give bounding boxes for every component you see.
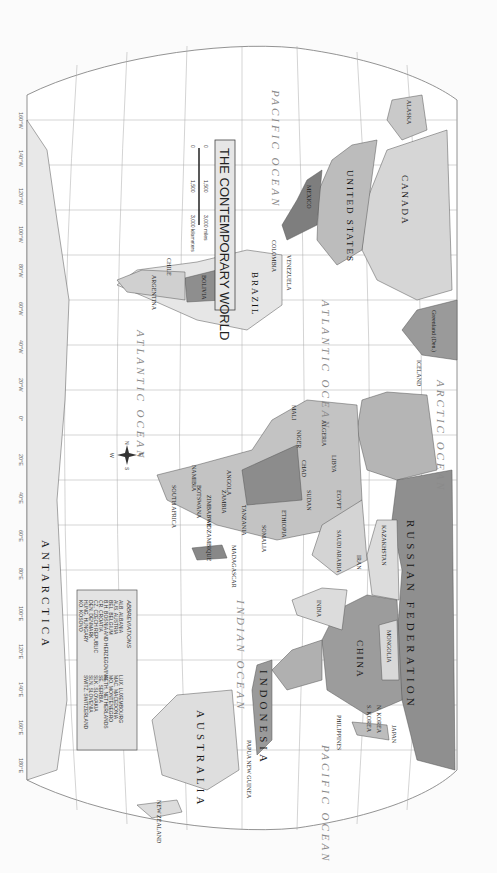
- label-new-zealand: NEW ZEALAND: [156, 800, 162, 844]
- label-kazakhstan: KAZAKHSTAN: [381, 525, 387, 566]
- label-russia: RUSSIAN FEDERATION: [405, 520, 417, 710]
- compass-n: N: [124, 441, 130, 445]
- label-united-states: UNITED STATES: [345, 170, 355, 263]
- longitude-label: 0°: [18, 416, 24, 421]
- compass-w: W: [109, 453, 115, 458]
- label-mongolia: MONGOLIA: [386, 630, 392, 663]
- longitude-label: 20°W: [18, 378, 24, 392]
- label-china: CHINA: [355, 640, 365, 679]
- label-mexico: MEXICO: [306, 185, 312, 209]
- label-iran: IRAN: [356, 555, 362, 570]
- label-madagascar: MADAGASCAR: [231, 545, 237, 588]
- label-colombia: COLOMBIA: [271, 240, 277, 273]
- scale-miles-1500: 1,500: [203, 180, 209, 193]
- longitude-label: 40°W: [18, 340, 24, 354]
- longitude-label: 180°E: [18, 758, 24, 773]
- abbreviation-entry: SWITZ. SWITZERLAND: [83, 675, 89, 730]
- label-saudi-arabia: SAUDI ARABIA: [336, 530, 342, 573]
- longitude-label: 40°E: [18, 492, 24, 504]
- longitude-label: 160°W: [18, 112, 24, 129]
- label-somalia: SOMALIA: [261, 525, 267, 553]
- label-antarctica: ANTARCTICA: [40, 540, 52, 650]
- world-map-rotated: PACIFIC OCEAN PACIFIC OCEAN ATLANTIC OCE…: [0, 0, 497, 873]
- label-egypt: EGYPT: [336, 490, 342, 510]
- scale-miles-0: 0: [203, 145, 209, 148]
- longitude-label: 160°E: [18, 720, 24, 735]
- label-sudan: SUDAN: [306, 490, 312, 511]
- label-australia: AUSTRALIA: [195, 710, 207, 808]
- label-papua-new-guinea: PAPUA NEW GUINEA: [246, 740, 252, 799]
- label-philippines: PHILIPPINES: [336, 715, 342, 750]
- label-s-korea: S. KOREA: [366, 705, 372, 733]
- ocean-label-atlantic-north: ATLANTIC OCEAN: [320, 299, 332, 431]
- scale-km-0: 0: [190, 145, 196, 148]
- abbreviations-legend: ABBREVIATIONS ALB. ALBANIAAUS. AUSTRIABE…: [77, 590, 137, 750]
- ocean-label-atlantic-south: ATLANTIC OCEAN: [135, 329, 147, 461]
- label-canada: CANADA: [400, 175, 410, 226]
- scale-km-1500: 1,500: [190, 180, 196, 193]
- label-zambia: ZAMBIA: [221, 490, 227, 514]
- longitude-label: 100°W: [18, 226, 24, 243]
- label-greenland: Greenland (Den.): [430, 310, 437, 352]
- label-mali: MALI: [291, 405, 297, 420]
- label-indonesia: INDONESIA: [258, 670, 270, 766]
- europe: [357, 392, 437, 480]
- label-tanzania: TANZANIA: [241, 505, 247, 536]
- ocean-label-arctic: ARCTIC OCEAN: [435, 379, 447, 493]
- longitude-label: 140°W: [18, 150, 24, 167]
- abbreviations-heading: ABBREVIATIONS: [126, 599, 132, 648]
- longitude-labels: 160°W140°W120°W100°W80°W60°W40°W20°W0°20…: [18, 112, 24, 773]
- ocean-label-indian: INDIAN OCEAN: [235, 599, 247, 711]
- label-south-africa: SOUTH AFRICA: [171, 485, 177, 529]
- longitude-label: 140°E: [18, 682, 24, 697]
- longitude-label: 60°E: [18, 530, 24, 542]
- longitude-label: 100°E: [18, 606, 24, 621]
- label-bolivia: BOLIVIA: [201, 275, 207, 300]
- label-ethiopia: ETHIOPIA: [281, 510, 287, 538]
- longitude-label: 80°E: [18, 568, 24, 580]
- longitude-label: 20°E: [18, 454, 24, 466]
- scale-miles-3000: 3,000 miles: [203, 215, 209, 241]
- longitude-label: 120°E: [18, 644, 24, 659]
- label-botswana: BOTSWANA: [196, 485, 202, 519]
- label-india: INDIA: [316, 600, 322, 618]
- abbreviation-entry: KO. KOSOVO: [78, 600, 84, 632]
- label-algeria: ALGERIA: [321, 420, 327, 447]
- longitude-label: 60°W: [18, 302, 24, 316]
- label-iceland: ICELAND: [416, 360, 422, 387]
- longitude-label: 120°W: [18, 188, 24, 205]
- label-brazil: BRAZIL: [250, 272, 260, 317]
- ocean-label-pacific-east: PACIFIC OCEAN: [320, 744, 332, 864]
- label-argentina: ARGENTINA: [151, 275, 157, 311]
- label-chad: CHAD: [301, 460, 307, 478]
- label-alaska: ALASKA: [406, 100, 412, 125]
- map-page: PACIFIC OCEAN PACIFIC OCEAN ATLANTIC OCE…: [0, 0, 497, 873]
- map-title-text: THE CONTEMPORARY WORLD: [217, 148, 232, 340]
- label-niger: NIGER: [296, 430, 302, 448]
- label-japan: JAPAN: [391, 725, 397, 744]
- label-venezuela: VENEZUELA: [286, 255, 292, 291]
- label-zimbabwe: ZIMBABWE: [206, 495, 212, 528]
- scale-km-3000: 3,000 kilometers: [190, 215, 196, 252]
- map-title: THE CONTEMPORARY WORLD: [215, 140, 235, 340]
- world-map-svg: PACIFIC OCEAN PACIFIC OCEAN ATLANTIC OCE…: [0, 0, 497, 873]
- longitude-label: 80°W: [18, 264, 24, 278]
- label-chile: CHILE: [166, 258, 172, 276]
- label-libya: LIBYA: [331, 455, 337, 473]
- ocean-label-pacific-west: PACIFIC OCEAN: [270, 89, 282, 209]
- label-n-korea: N. KOREA: [376, 705, 382, 734]
